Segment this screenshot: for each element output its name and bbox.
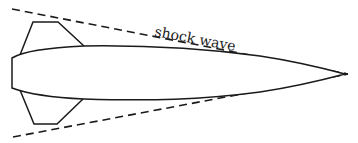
shock-wave-diagram: shock wave [0,0,358,143]
nose-tip-point [343,72,346,75]
projectile-body [12,46,345,100]
